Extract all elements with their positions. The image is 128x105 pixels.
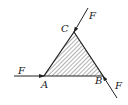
force-label-a: F	[17, 65, 26, 76]
diagram-canvas: C A B F F F	[0, 0, 128, 105]
vertex-label-a: A	[40, 79, 48, 90]
force-diagram: C A B F F F	[0, 0, 128, 105]
force-label-b: F	[114, 80, 123, 91]
force-line-c	[74, 8, 88, 32]
force-label-c: F	[88, 10, 97, 21]
vertex-label-c: C	[61, 23, 69, 34]
vertex-label-b: B	[94, 75, 102, 86]
triangle-abc	[44, 32, 103, 76]
